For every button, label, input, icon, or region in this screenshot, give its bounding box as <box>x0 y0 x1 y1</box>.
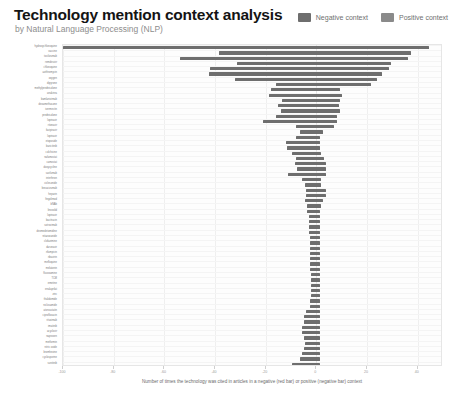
y-axis-label: azithromycin <box>42 71 57 74</box>
bar[interactable] <box>304 320 320 323</box>
x-axis-tick <box>214 366 215 369</box>
x-axis-caption: Number of times the technology was cited… <box>62 379 442 384</box>
y-axis-label: tocilizumab <box>44 55 57 58</box>
bar[interactable] <box>296 136 320 139</box>
bar[interactable] <box>307 204 321 207</box>
bar[interactable] <box>210 67 389 70</box>
gridline-horizontal <box>63 277 441 278</box>
legend-swatch-positive-icon <box>381 13 394 22</box>
bar[interactable] <box>286 141 320 144</box>
bar[interactable] <box>309 231 320 234</box>
bar[interactable] <box>287 146 320 149</box>
bar[interactable] <box>302 331 320 334</box>
bar[interactable] <box>63 46 429 49</box>
bar[interactable] <box>180 57 408 60</box>
x-axis-tick-label: -100 <box>58 370 65 374</box>
bar[interactable] <box>307 210 320 213</box>
y-axis-label: bromhexine <box>43 351 57 354</box>
bar[interactable] <box>309 225 320 228</box>
y-axis-label: dexamethasone <box>39 103 57 106</box>
gridline-horizontal <box>63 251 441 252</box>
y-axis-label: favipiravir <box>46 129 57 132</box>
bar[interactable] <box>310 257 320 260</box>
bar[interactable] <box>310 305 320 308</box>
x-axis-tick <box>417 366 418 369</box>
bar[interactable] <box>276 83 371 86</box>
bar[interactable] <box>297 167 326 170</box>
bar[interactable] <box>300 357 320 360</box>
y-axis-label: vaccine <box>48 50 57 53</box>
x-axis-tick <box>62 366 63 369</box>
bar[interactable] <box>306 310 320 313</box>
gridline-horizontal <box>63 172 441 173</box>
y-axis-label: nitric oxide <box>45 346 57 349</box>
bar[interactable] <box>311 278 320 281</box>
bar[interactable] <box>305 199 323 202</box>
bar[interactable] <box>304 336 320 339</box>
legend-item-negative[interactable]: Negative context <box>298 13 368 22</box>
gridline-horizontal <box>63 156 441 157</box>
gridline-horizontal <box>63 346 441 347</box>
bar[interactable] <box>296 157 324 160</box>
bar[interactable] <box>271 88 341 91</box>
y-axis-label: dexmedetomidine <box>37 230 57 233</box>
gridline-horizontal <box>63 209 441 210</box>
bar[interactable] <box>305 183 321 186</box>
bar[interactable] <box>304 347 320 350</box>
bar[interactable] <box>310 299 320 302</box>
legend-swatch-negative-icon <box>298 13 311 22</box>
bar[interactable] <box>302 326 320 329</box>
y-axis-label: bevacizumab <box>42 187 57 190</box>
bar[interactable] <box>309 215 320 218</box>
bar[interactable] <box>292 152 321 155</box>
gridline-horizontal <box>63 135 441 136</box>
bar[interactable] <box>306 189 326 192</box>
bar[interactable] <box>310 252 320 255</box>
plot-area[interactable] <box>62 44 442 366</box>
bar[interactable] <box>302 352 320 355</box>
bar[interactable] <box>235 78 377 81</box>
bar[interactable] <box>305 342 320 345</box>
bar[interactable] <box>219 51 412 54</box>
bar[interactable] <box>311 284 320 287</box>
x-axis: -100-80-60-40-2002040 Number of times th… <box>62 366 442 396</box>
bar[interactable] <box>310 241 320 244</box>
gridline-horizontal <box>63 293 441 294</box>
x-axis-tick <box>366 366 367 369</box>
bar[interactable] <box>278 104 339 107</box>
bar[interactable] <box>311 289 320 292</box>
bar[interactable] <box>237 62 392 65</box>
bar[interactable] <box>311 273 320 276</box>
y-axis-label: enalaprilat <box>45 288 57 291</box>
bar[interactable] <box>269 94 341 97</box>
bar[interactable] <box>309 220 320 223</box>
gridline-horizontal <box>63 119 441 120</box>
bar[interactable] <box>282 99 340 102</box>
gridline-horizontal <box>63 261 441 262</box>
bar[interactable] <box>300 130 323 133</box>
y-axis-label: nafamostat <box>44 156 57 159</box>
bar[interactable] <box>306 194 326 197</box>
bar[interactable] <box>281 109 341 112</box>
bar[interactable] <box>296 125 334 128</box>
bar[interactable] <box>310 236 320 239</box>
bar[interactable] <box>276 115 337 118</box>
y-axis-label: ribavirin <box>48 256 57 259</box>
y-axis-label: ciclesonide <box>44 182 57 185</box>
gridline-horizontal <box>63 103 441 104</box>
gridline-horizontal <box>63 145 441 146</box>
bar[interactable] <box>310 262 320 265</box>
y-axis-label: bamlanivimab <box>41 98 57 101</box>
legend-item-positive[interactable]: Positive context <box>381 13 448 22</box>
bar[interactable] <box>288 173 326 176</box>
bar[interactable] <box>209 72 383 75</box>
bar[interactable] <box>302 178 321 181</box>
bar[interactable] <box>311 294 320 297</box>
bar[interactable] <box>310 268 320 271</box>
bar[interactable] <box>304 315 320 318</box>
y-axis-label: sarilumab <box>46 172 57 175</box>
bar[interactable] <box>310 247 320 250</box>
bar[interactable] <box>263 120 336 123</box>
bar[interactable] <box>295 162 327 165</box>
y-axis-label: thalidomide <box>44 298 57 301</box>
